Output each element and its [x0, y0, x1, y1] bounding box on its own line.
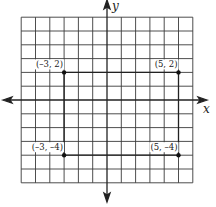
y-axis-down-arrow-icon: [104, 193, 110, 202]
point-marker: [176, 70, 180, 74]
point-marker: [176, 153, 180, 157]
y-axis-label: y: [111, 0, 119, 13]
point-marker: [62, 70, 66, 74]
y-axis-up-arrow-icon: [104, 0, 110, 9]
point-marker: [62, 153, 66, 157]
coordinate-plane: x y (–3, 2)(5, 2)(–3, –4)(5, –4): [0, 0, 216, 207]
axes: [3, 0, 207, 202]
data-points: (–3, 2)(5, 2)(–3, –4)(5, –4): [31, 59, 181, 157]
x-axis-left-arrow-icon: [3, 97, 12, 103]
x-axis-label: x: [203, 102, 210, 116]
point-label: (5, 2): [155, 59, 178, 69]
point-label: (5, –4): [150, 142, 177, 152]
point-label: (–3, –4): [32, 142, 63, 152]
point-label: (–3, 2): [36, 59, 63, 69]
